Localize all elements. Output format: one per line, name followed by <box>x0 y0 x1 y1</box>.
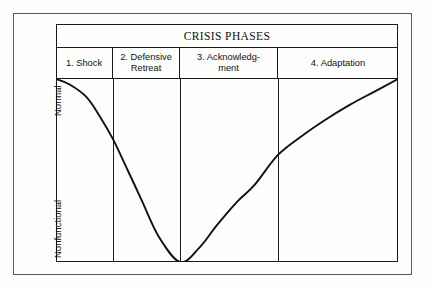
phase-label-4-line1: 4. Adaptation <box>311 58 365 68</box>
phase-label-2: 2. Defensive Retreat <box>120 52 172 74</box>
y-axis-label-normal: Normal <box>52 85 63 116</box>
phase-label-3-line2: ment <box>197 63 260 74</box>
phase-label-1-line1: 1. Shock <box>66 58 102 68</box>
phase-label-3-line1: 3. Acknowledg- <box>197 52 260 62</box>
phase-label-2-line2: Retreat <box>120 63 172 74</box>
phase-divider-lines <box>114 79 279 262</box>
phase-label-2-line1: 2. Defensive <box>120 52 172 62</box>
chart-title-band: CRISIS PHASES <box>56 24 398 48</box>
phase-label-3: 3. Acknowledg- ment <box>197 52 260 74</box>
phase-cell-shock: 1. Shock <box>56 48 113 78</box>
crisis-curve-svg <box>56 79 398 262</box>
phase-label-1: 1. Shock <box>66 58 102 69</box>
page-title: CRISIS PHASES <box>184 30 271 42</box>
phase-cell-adaptation: 4. Adaptation <box>278 48 398 78</box>
phase-cell-acknowledgment: 3. Acknowledg- ment <box>180 48 278 78</box>
crisis-phases-figure: CRISIS PHASES 1. Shock 2. Defensive Retr… <box>0 0 431 288</box>
phase-header-row: 1. Shock 2. Defensive Retreat 3. Acknowl… <box>56 48 398 79</box>
functioning-level-curve <box>56 79 398 262</box>
plot-area <box>56 79 398 262</box>
y-axis-label-nonfunctional: Nonfunctional <box>52 200 63 258</box>
phase-label-4: 4. Adaptation <box>311 58 365 69</box>
phase-cell-defensive-retreat: 2. Defensive Retreat <box>113 48 180 78</box>
